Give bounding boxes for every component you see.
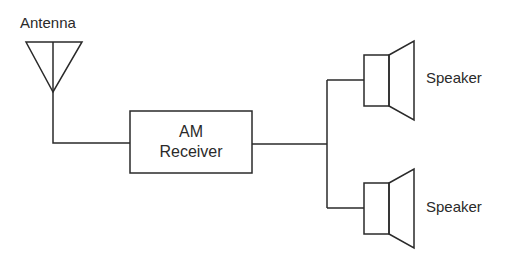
receiver-label-line2: Receiver — [159, 142, 222, 162]
diagram-canvas: Antenna AM Receiver Speaker Speaker — [0, 0, 512, 255]
speaker1-label: Speaker — [426, 69, 482, 86]
antenna-connection — [53, 92, 130, 143]
speaker-icon — [364, 169, 414, 248]
antenna-icon — [26, 42, 82, 92]
antenna-label: Antenna — [20, 14, 76, 31]
receiver-label: AM Receiver — [130, 111, 252, 173]
speaker2-label: Speaker — [426, 198, 482, 215]
receiver-label-line1: AM — [179, 122, 203, 142]
speaker-icon — [364, 41, 414, 120]
diagram-lines — [0, 0, 512, 255]
